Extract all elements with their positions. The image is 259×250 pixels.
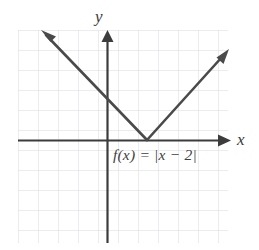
graph-canvas bbox=[0, 0, 259, 250]
absolute-value-graph-figure: y x f(x) = |x − 2| bbox=[0, 0, 259, 250]
function-equation-label: f(x) = |x − 2| bbox=[113, 146, 197, 164]
x-axis-label: x bbox=[237, 131, 245, 148]
y-axis-label: y bbox=[95, 8, 103, 25]
coordinate-grid bbox=[18, 30, 228, 243]
